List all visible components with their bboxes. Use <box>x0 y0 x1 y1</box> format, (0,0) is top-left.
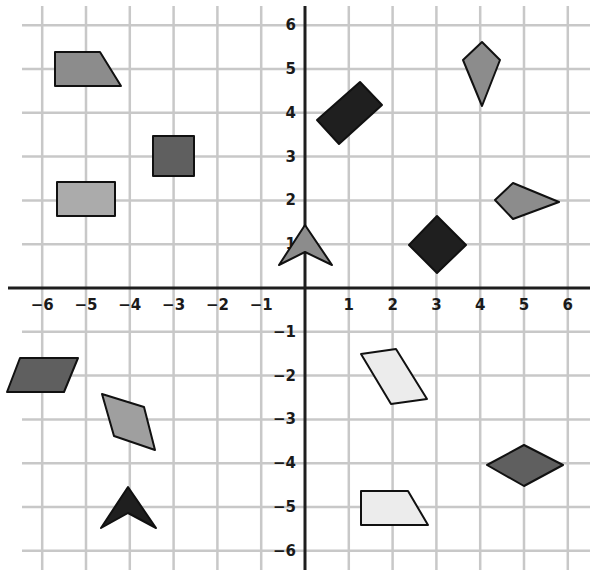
x-tick-label: 4 <box>475 296 485 314</box>
x-tick-label: −6 <box>31 296 54 314</box>
x-tick-label: −4 <box>118 296 141 314</box>
square-diamond-shape <box>409 216 466 273</box>
y-tick-label: −6 <box>273 542 296 560</box>
x-tick-label: 6 <box>563 296 573 314</box>
x-tick-label: 1 <box>344 296 354 314</box>
kite-horizontal-shape <box>495 183 559 219</box>
x-tick-label: −2 <box>206 296 229 314</box>
y-tick-label: −2 <box>273 367 296 385</box>
rotated-rectangle-shape <box>317 82 382 144</box>
rhombus-shape <box>487 445 563 486</box>
x-tick-label: 5 <box>519 296 529 314</box>
y-tick-label: 3 <box>286 148 296 166</box>
x-tick-label: 2 <box>387 296 397 314</box>
parallelogram-shape <box>7 358 78 392</box>
y-tick-label: 2 <box>286 191 296 209</box>
rhombus-shape <box>102 394 155 450</box>
x-tick-label: 3 <box>431 296 441 314</box>
y-tick-label: −4 <box>273 454 296 472</box>
y-tick-label: 4 <box>286 104 296 122</box>
y-tick-label: 5 <box>286 60 296 78</box>
trapezoid-shape <box>55 52 121 86</box>
y-tick-label: −3 <box>273 410 296 428</box>
y-tick-label: 6 <box>286 16 296 34</box>
rectangle-shape <box>57 182 115 216</box>
y-tick-label: −5 <box>273 498 296 516</box>
square-shape <box>153 136 194 176</box>
x-tick-labels: −6−5−4−3−2−1123456 <box>31 296 573 314</box>
coordinate-grid: −6−5−4−3−2−1123456 654321−1−2−3−4−5−6 <box>0 0 594 572</box>
trapezoid-shape <box>361 491 428 525</box>
x-tick-label: −3 <box>162 296 185 314</box>
y-tick-label: −1 <box>273 323 296 341</box>
axes <box>8 6 590 570</box>
kite-vertical-shape <box>463 42 500 106</box>
x-tick-label: −5 <box>74 296 97 314</box>
x-tick-label: −1 <box>250 296 273 314</box>
